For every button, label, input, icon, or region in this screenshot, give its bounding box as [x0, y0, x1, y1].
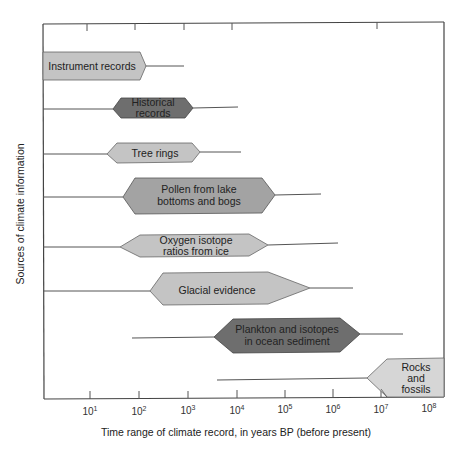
row-historical-records: Historical records — [43, 96, 238, 119]
x-tick-labels: 101 102 103 104 105 106 107 108 — [82, 402, 436, 417]
y-axis-title: Sources of climate information — [14, 143, 26, 284]
row-rocks-fossils: Rocks and fossils — [217, 358, 444, 397]
tick-label-1: 101 — [82, 405, 97, 417]
x-axis-title: Time range of climate record, in years B… — [101, 426, 371, 438]
row-glacial-evidence: Glacial evidence — [43, 272, 353, 305]
tick-label-6: 106 — [325, 403, 340, 415]
tick-label-4: 104 — [229, 404, 244, 416]
tick-label-3: 103 — [180, 404, 195, 416]
row-instrument-records: Instrument records — [43, 52, 184, 80]
row-label: Plankton and isotopes — [235, 323, 338, 335]
row-tree-rings: Tree rings — [43, 143, 241, 163]
row-label: fossils — [401, 383, 430, 395]
row-label: bottoms and bogs — [157, 195, 240, 207]
climate-sources-diagram: 101 102 103 104 105 106 107 108 Time ran… — [0, 0, 460, 451]
tick-label-2: 102 — [131, 405, 146, 417]
tick-label-8: 108 — [421, 402, 436, 414]
row-label: ratios from ice — [163, 245, 229, 257]
tick-label-5: 105 — [277, 403, 292, 415]
row-pollen: Pollen from lake bottoms and bogs — [43, 178, 321, 214]
row-oxygen-isotope: Oxygen isotope ratios from ice — [43, 234, 338, 257]
row-label: in ocean sediment — [244, 335, 329, 347]
row-label: Glacial evidence — [178, 284, 255, 296]
row-label: Tree rings — [132, 147, 179, 159]
row-label: Pollen from lake — [161, 183, 236, 195]
row-label: Instrument records — [48, 60, 136, 72]
row-label: records — [135, 107, 170, 119]
row-plankton: Plankton and isotopes in ocean sediment — [132, 318, 403, 353]
tick-label-7: 107 — [373, 403, 388, 415]
